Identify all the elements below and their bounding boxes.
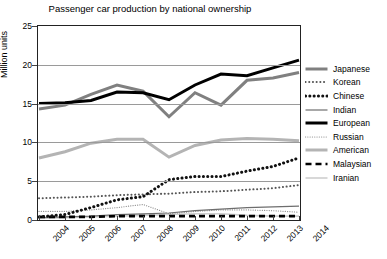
legend-label: Indian — [333, 105, 356, 115]
legend-swatch-chinese — [305, 90, 328, 102]
x-axis-tick-mark — [195, 216, 196, 220]
x-axis-tick-mark — [117, 216, 118, 220]
legend-item-chinese[interactable]: Chinese — [305, 89, 387, 103]
x-axis-tick-label: 2013 — [285, 223, 305, 243]
plot-area — [37, 25, 301, 221]
legend-item-malaysian[interactable]: Malaysian — [305, 157, 387, 171]
chart-legend: JapaneseKoreanChineseIndianEuropeanRussi… — [305, 62, 387, 184]
gridline — [38, 142, 300, 143]
x-axis-tick-mark — [169, 216, 170, 220]
legend-item-japanese[interactable]: Japanese — [305, 62, 387, 76]
x-axis-tick-mark — [143, 216, 144, 220]
gridline — [38, 65, 300, 66]
legend-item-korean[interactable]: Korean — [305, 76, 387, 90]
legend-label: Russian — [333, 132, 364, 142]
legend-swatch-iranian — [305, 172, 328, 184]
x-axis-tick-label: 2005 — [77, 223, 97, 243]
y-axis-tick-label: 10 — [4, 137, 32, 147]
legend-item-iranian[interactable]: Iranian — [305, 171, 387, 185]
legend-label: Japanese — [333, 64, 370, 74]
legend-swatch-indian — [305, 104, 328, 116]
x-axis: 2004200520062007200820092010201120122013… — [37, 223, 301, 257]
x-axis-tick-label: 2010 — [207, 223, 227, 243]
x-axis-tick-mark — [247, 216, 248, 220]
legend-label: American — [333, 145, 369, 155]
legend-label: Malaysian — [333, 159, 371, 169]
x-axis-tick-label: 2007 — [129, 223, 149, 243]
x-axis-tick-mark — [65, 216, 66, 220]
chart-title: Passenger car production by national own… — [0, 3, 300, 14]
legend-item-indian[interactable]: Indian — [305, 103, 387, 117]
gridline — [38, 104, 300, 105]
x-axis-tick-label: 2004 — [51, 223, 71, 243]
x-axis-tick-label: 2014 — [311, 223, 331, 243]
legend-label: Korean — [333, 77, 360, 87]
x-axis-tick-mark — [91, 216, 92, 220]
series-layer — [38, 26, 300, 220]
legend-item-european[interactable]: European — [305, 116, 387, 130]
x-axis-tick-label: 2012 — [259, 223, 279, 243]
legend-swatch-malaysian — [305, 158, 328, 170]
x-axis-tick-label: 2006 — [103, 223, 123, 243]
legend-swatch-russian — [305, 131, 328, 143]
y-axis: 0510152025 — [0, 25, 37, 221]
legend-swatch-european — [305, 117, 328, 129]
x-axis-tick-label: 2011 — [232, 223, 252, 243]
x-axis-tick-label: 2009 — [181, 223, 201, 243]
y-axis-tick-label: 0 — [4, 215, 32, 225]
x-axis-tick-mark — [299, 216, 300, 220]
y-axis-tick-label: 20 — [4, 60, 32, 70]
legend-swatch-japanese — [305, 63, 328, 75]
series-line-european — [39, 60, 299, 103]
x-axis-tick-mark — [39, 216, 40, 220]
legend-label: Chinese — [333, 91, 364, 101]
x-axis-tick-mark — [273, 216, 274, 220]
y-axis-tick-label: 5 — [4, 176, 32, 186]
x-axis-tick-label: 2008 — [155, 223, 175, 243]
y-axis-tick-label: 15 — [4, 99, 32, 109]
legend-label: Iranian — [333, 173, 359, 183]
y-axis-tick-label: 25 — [4, 21, 32, 31]
legend-label: European — [333, 118, 370, 128]
legend-item-american[interactable]: American — [305, 144, 387, 158]
series-line-japanese — [39, 73, 299, 117]
series-line-chinese — [39, 158, 299, 217]
legend-swatch-korean — [305, 76, 328, 88]
chart-container: Passenger car production by national own… — [0, 0, 387, 259]
x-axis-tick-mark — [221, 216, 222, 220]
gridline — [38, 181, 300, 182]
legend-item-russian[interactable]: Russian — [305, 130, 387, 144]
series-line-korean — [39, 185, 299, 198]
legend-swatch-american — [305, 144, 328, 156]
